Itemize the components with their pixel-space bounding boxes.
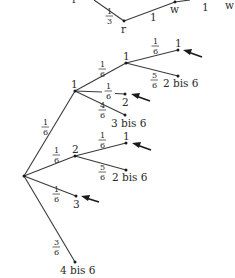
arrow-icon	[132, 142, 151, 150]
edge-root-n3	[24, 176, 76, 196]
prob-n2-2bis6: 5 6	[99, 163, 107, 182]
label-r-top-left: r	[72, 0, 78, 5]
probability-tree-diagram: r r w w 1 1 1 3 1 6 1 6 1 6 3 6 1 2 3 4 …	[0, 0, 235, 278]
arrow-icon	[81, 195, 99, 202]
prob-n1-2: 1 6	[105, 82, 113, 101]
prob-n2-1: 1 6	[99, 131, 107, 150]
svg-text:1: 1	[54, 146, 59, 155]
svg-text:6: 6	[54, 248, 59, 257]
edge-n1-2a	[75, 91, 102, 92]
svg-text:3: 3	[54, 238, 59, 247]
node-r	[123, 20, 126, 23]
arrow-icon	[183, 49, 202, 57]
label-n1-1: 1	[123, 50, 130, 62]
prob-root-n3: 1 6	[53, 185, 61, 204]
prob-root-n2: 1 6	[53, 146, 61, 165]
svg-text:1: 1	[54, 185, 59, 194]
svg-text:1: 1	[43, 118, 48, 127]
svg-text:1: 1	[100, 60, 105, 69]
edge-w-right	[175, 0, 190, 2]
prob-n11-1: 1 6	[152, 37, 160, 56]
label-r: r	[121, 23, 127, 35]
label-n1-3bis6: 3 bis 6	[111, 117, 147, 129]
svg-text:1: 1	[107, 7, 112, 16]
prob-n1-1: 1 6	[99, 60, 107, 79]
svg-text:5: 5	[100, 163, 105, 172]
label-n11-2bis6: 2 bis 6	[163, 77, 199, 89]
svg-text:6: 6	[100, 70, 105, 79]
svg-text:6: 6	[106, 92, 111, 101]
prob-root-n4: 3 6	[53, 238, 61, 257]
label-n2: 2	[72, 143, 79, 155]
prob-w-right: 1	[202, 1, 209, 13]
label-n4: 4 bis 6	[60, 264, 96, 276]
svg-text:6: 6	[152, 81, 157, 90]
label-n1-2: 2	[122, 96, 129, 108]
svg-text:5: 5	[152, 71, 157, 80]
prob-n1-3bis6: 4 6	[99, 101, 107, 120]
label-n11-1: 1	[175, 37, 182, 49]
label-w: w	[170, 3, 179, 15]
edge-n1-2b	[115, 94, 125, 95]
svg-text:6: 6	[100, 111, 105, 120]
edge-root-n2	[24, 156, 75, 176]
svg-text:6: 6	[43, 128, 48, 137]
label-n2-2bis6: 2 bis 6	[112, 171, 148, 183]
svg-text:1: 1	[106, 82, 111, 91]
prob-n11-2bis6: 5 6	[151, 71, 159, 90]
svg-text:6: 6	[153, 47, 158, 56]
svg-text:4: 4	[100, 101, 105, 110]
label-n3: 3	[73, 198, 80, 210]
svg-text:6: 6	[54, 195, 59, 204]
label-n2-1: 1	[123, 130, 130, 142]
svg-text:1: 1	[100, 131, 105, 140]
prob-fraction-1-3: 1 3	[106, 7, 114, 26]
label-n1: 1	[71, 78, 78, 90]
svg-text:3: 3	[107, 17, 112, 26]
edge-n11-1	[126, 50, 178, 63]
node-root	[23, 175, 26, 178]
prob-r-w: 1	[150, 11, 157, 23]
svg-text:6: 6	[100, 141, 105, 150]
edge-root-n1	[24, 91, 75, 176]
svg-text:1: 1	[153, 37, 158, 46]
svg-text:6: 6	[100, 173, 105, 182]
edge-root-n4	[24, 176, 75, 262]
label-w-right: w	[225, 0, 234, 11]
arrow-icon	[131, 93, 150, 101]
prob-root-n1: 1 6	[42, 118, 50, 137]
svg-text:6: 6	[54, 156, 59, 165]
